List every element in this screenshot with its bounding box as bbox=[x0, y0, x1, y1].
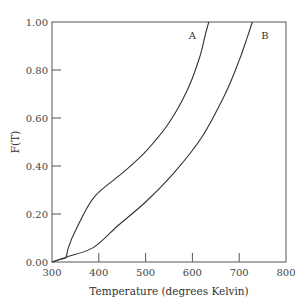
y-tick-label: 0.60 bbox=[26, 113, 48, 124]
axes bbox=[52, 22, 286, 262]
y-tick-label: 1.00 bbox=[26, 17, 48, 28]
y-tick-label: 0.20 bbox=[26, 209, 48, 220]
x-tick-label: 700 bbox=[230, 267, 249, 278]
x-tick-label: 500 bbox=[136, 267, 155, 278]
x-tick-label: 300 bbox=[42, 267, 61, 278]
series: AB bbox=[52, 22, 269, 262]
y-axis-label: F(T) bbox=[9, 131, 21, 153]
series-label-b: B bbox=[261, 30, 268, 41]
plot-frame bbox=[52, 22, 286, 262]
y-tick-label: 0.40 bbox=[26, 161, 48, 172]
series-line-b bbox=[52, 22, 252, 262]
x-tick-label: 600 bbox=[183, 267, 202, 278]
series-line-a bbox=[52, 22, 209, 262]
y-tick-label: 0.80 bbox=[26, 65, 48, 76]
ticks: 3004005006007008000.000.200.400.600.801.… bbox=[26, 17, 296, 279]
y-tick-label: 0.00 bbox=[26, 257, 48, 268]
x-axis-label: Temperature (degrees Kelvin) bbox=[89, 285, 248, 297]
x-tick-label: 800 bbox=[276, 267, 295, 278]
series-label-a: A bbox=[188, 30, 197, 41]
x-tick-label: 400 bbox=[89, 267, 108, 278]
chart: 3004005006007008000.000.200.400.600.801.… bbox=[0, 0, 306, 304]
